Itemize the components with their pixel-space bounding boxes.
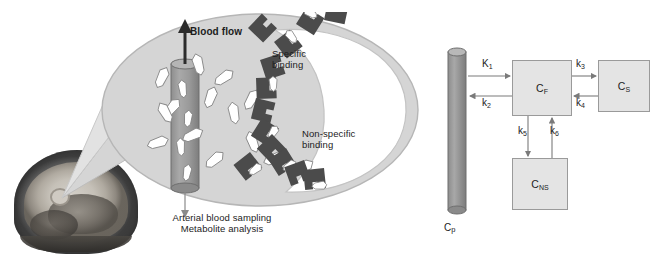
compartment-model-panel: Cp: [430, 0, 660, 256]
arterial-sampling-label: Arterial blood sampling Metabolite analy…: [137, 212, 307, 234]
specific-binding-label: Specific binding: [272, 48, 306, 70]
rate-constant-k5: k5: [518, 125, 527, 137]
tissue-illustration-panel: Blood flow Specific binding Non-specific…: [0, 0, 430, 256]
rate-constant-k2: k2: [482, 97, 491, 109]
nonspecific-binding-compartment-box: CNS: [512, 158, 568, 210]
cf-label-subscript: F: [544, 87, 548, 94]
blood-flow-label: Blood flow: [190, 26, 242, 37]
k4-subscript: 4: [581, 102, 585, 109]
rate-constant-k1: K1: [482, 58, 493, 70]
cs-label-subscript: S: [625, 85, 630, 92]
sampling-line2: Metabolite analysis: [137, 223, 307, 234]
k2-subscript: 2: [487, 102, 491, 109]
cf-label-base: C: [536, 82, 544, 94]
specific-binding-line1: Specific: [272, 48, 306, 59]
model-arrow-layer: [430, 0, 660, 256]
nonspecific-binding-label: Non-specific binding: [302, 128, 355, 150]
nonspecific-binding-line2: binding: [302, 139, 333, 150]
k5-subscript: 5: [523, 130, 527, 137]
k6-subscript: 6: [555, 130, 559, 137]
figure-root: Blood flow Specific binding Non-specific…: [0, 0, 660, 256]
sampling-line1: Arterial blood sampling: [137, 212, 307, 223]
rate-constant-k6: k6: [550, 125, 559, 137]
receptor-shapes: [100, 12, 420, 212]
free-compartment-box: CF: [512, 60, 572, 116]
brain-base-shadow: [20, 236, 132, 252]
rate-constant-k4: k4: [576, 97, 585, 109]
specific-binding-line2: binding: [272, 59, 303, 70]
specific-binding-compartment-box: CS: [598, 60, 650, 112]
k1-base: K: [482, 58, 489, 69]
k3-subscript: 3: [581, 63, 585, 70]
cns-label-subscript: NS: [539, 183, 549, 190]
cns-label-base: C: [531, 178, 539, 190]
k1-subscript: 1: [489, 63, 493, 70]
nonspecific-binding-line1: Non-specific: [302, 128, 355, 139]
rate-constant-k3: k3: [576, 58, 585, 70]
